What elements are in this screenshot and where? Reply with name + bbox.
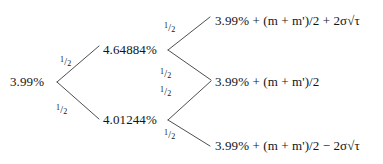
node-down: 4.01244% [103,113,157,126]
fraction-denominator: 2 [67,59,71,68]
node-up: 4.64884% [103,43,157,56]
node-root: 3.99% [10,75,44,88]
probability-down-bottom: 1/2 [164,129,175,141]
fraction-denominator: 2 [63,107,67,116]
fraction-denominator: 2 [167,89,171,98]
fraction-denominator: 2 [171,132,175,141]
probability-root-down: 1/2 [56,104,67,116]
leaf-top: 3.99% + (m + m')/2 + 2σ√τ [215,14,360,27]
edge-up-middle [168,50,211,80]
fraction-denominator: 2 [171,25,175,34]
probability-up-middle: 1/2 [160,68,171,80]
leaf-middle: 3.99% + (m + m')/2 [215,75,319,88]
probability-root-up: 1/2 [60,56,71,68]
probability-down-middle: 1/2 [160,86,171,98]
leaf-bottom: 3.99% + (m + m')/2 − 2σ√τ [215,139,360,152]
binomial-tree-diagram: 3.99% 4.64884% 4.01244% 3.99% + (m + m')… [0,0,383,164]
edge-down-middle [168,81,211,120]
probability-up-top: 1/2 [164,22,175,34]
fraction-denominator: 2 [167,71,171,80]
